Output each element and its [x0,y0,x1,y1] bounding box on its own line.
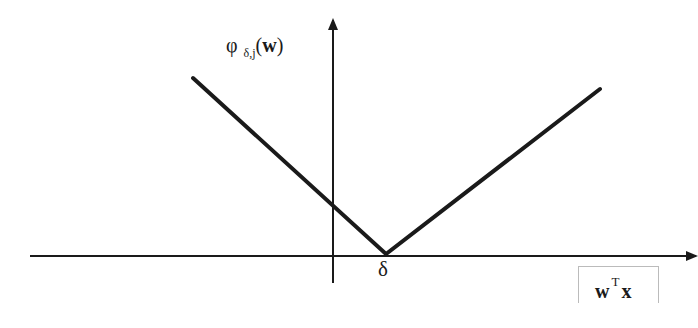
v-shaped-function [193,78,600,254]
y-axis-subscript: δ,j [244,46,256,60]
x-axis-superscript: T [611,274,619,289]
y-axis-label: φδ,j(w) [226,34,283,57]
x-axis-label: wTx [595,278,631,303]
y-axis-symbol: φ [226,34,238,56]
vertex-label: δ [378,257,388,282]
x-axis-tail: x [621,280,631,302]
x-axis-base: w [595,280,609,302]
y-axis-argument: w [262,34,276,56]
